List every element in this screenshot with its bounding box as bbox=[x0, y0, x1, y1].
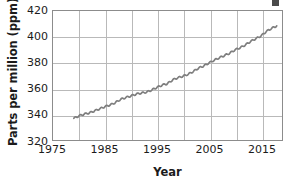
x-tick-label: 2005 bbox=[190, 144, 230, 156]
y-tick-label: 340 bbox=[20, 109, 48, 120]
y-axis-tick-labels: 320340360380400420 bbox=[14, 0, 48, 189]
plot-area bbox=[52, 10, 283, 141]
x-axis-title: Year bbox=[52, 165, 283, 179]
y-tick-label: 400 bbox=[20, 31, 48, 42]
y-tick-label: 380 bbox=[20, 57, 48, 68]
x-tick-label: 1975 bbox=[32, 144, 72, 156]
x-tick-label: 2015 bbox=[242, 144, 282, 156]
x-tick-label: 1985 bbox=[85, 144, 125, 156]
data-series-line bbox=[53, 11, 282, 140]
x-axis-tick-labels: 19751985199520052015 bbox=[0, 144, 293, 160]
x-tick-label: 1995 bbox=[137, 144, 177, 156]
co2-concentration-chart: Parts per million (ppm) 3203403603804004… bbox=[0, 0, 293, 189]
y-tick-label: 360 bbox=[20, 83, 48, 94]
page-crop-artifact bbox=[272, 0, 279, 6]
y-tick-label: 420 bbox=[20, 5, 48, 16]
